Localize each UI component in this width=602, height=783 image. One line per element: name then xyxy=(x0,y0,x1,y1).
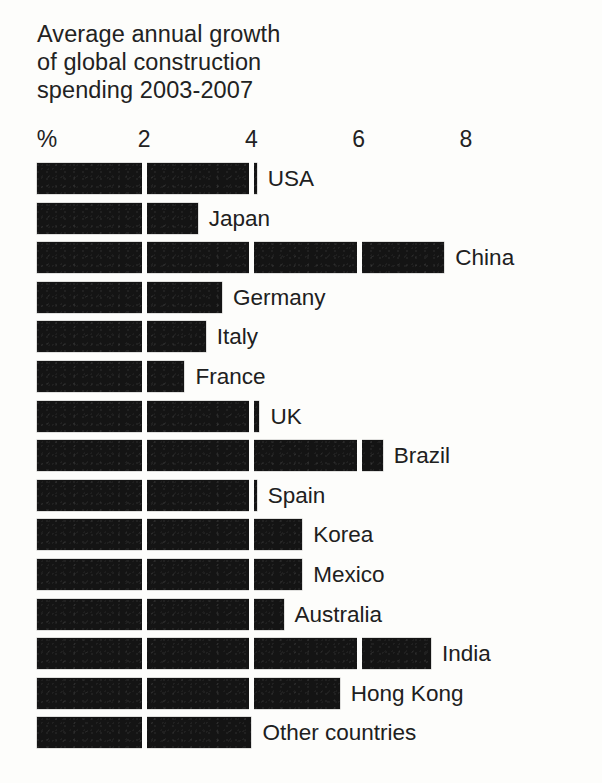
gridline-4 xyxy=(249,598,254,631)
gridline-2 xyxy=(142,400,147,433)
bar-row: UK xyxy=(0,401,602,432)
bar-row: Hong Kong xyxy=(0,678,602,709)
gridline-2 xyxy=(142,637,147,670)
x-axis-tick-4: 4 xyxy=(245,126,258,152)
gridline-2 xyxy=(142,439,147,472)
x-axis-tick-8: 8 xyxy=(459,126,472,152)
gridline-4 xyxy=(249,241,254,274)
bar-label: Japan xyxy=(209,205,270,232)
bar-label: Korea xyxy=(313,521,373,548)
bar-row: France xyxy=(0,361,602,392)
bar-row: India xyxy=(0,638,602,669)
bar-label: India xyxy=(442,640,491,667)
gridline-4 xyxy=(249,677,254,710)
bar-label: France xyxy=(195,363,265,390)
bar-label: UK xyxy=(270,403,301,430)
gridline-4 xyxy=(249,558,254,591)
gridline-2 xyxy=(142,241,147,274)
bar-label: Australia xyxy=(295,601,383,628)
gridline-4 xyxy=(249,518,254,551)
bar-row: Mexico xyxy=(0,559,602,590)
gridline-2 xyxy=(142,479,147,512)
gridline-4 xyxy=(249,400,254,433)
gridline-6 xyxy=(357,241,362,274)
gridline-2 xyxy=(142,320,147,353)
chart-plot-area: USAJapanChinaGermanyItalyFranceUKBrazilS… xyxy=(0,163,602,763)
gridline-2 xyxy=(142,162,147,195)
bar-row: Australia xyxy=(0,599,602,630)
gridline-6 xyxy=(357,637,362,670)
bar xyxy=(37,678,340,709)
bar xyxy=(37,282,222,313)
x-axis-tick-6: 6 xyxy=(352,126,365,152)
bar-label: Other countries xyxy=(262,719,416,746)
bar xyxy=(37,361,184,392)
bar xyxy=(37,638,431,669)
bar-label: Italy xyxy=(217,323,258,350)
gridline-2 xyxy=(142,360,147,393)
bar-label: Germany xyxy=(233,284,326,311)
bar-row: Germany xyxy=(0,282,602,313)
gridline-2 xyxy=(142,558,147,591)
gridline-6 xyxy=(357,439,362,472)
bar-label: China xyxy=(455,244,514,271)
bar xyxy=(37,559,302,590)
bar-chart-figure: Average annual growth of global construc… xyxy=(0,0,602,783)
bar xyxy=(37,401,259,432)
x-axis-tick-percent: % xyxy=(37,126,57,152)
bar xyxy=(37,519,302,550)
gridline-4 xyxy=(249,637,254,670)
bar-label: Spain xyxy=(268,482,326,509)
bar-row: Italy xyxy=(0,321,602,352)
bar-label: Hong Kong xyxy=(351,680,464,707)
x-axis-tick-2: 2 xyxy=(138,126,151,152)
bar-label: Brazil xyxy=(394,442,450,469)
bar xyxy=(37,440,383,471)
bar-label: USA xyxy=(268,165,314,192)
bar-row: Other countries xyxy=(0,717,602,748)
bar-row: Brazil xyxy=(0,440,602,471)
bar xyxy=(37,321,206,352)
bar xyxy=(37,203,198,234)
bar-row: Japan xyxy=(0,203,602,234)
gridline-4 xyxy=(249,162,254,195)
gridline-2 xyxy=(142,716,147,749)
chart-title: Average annual growth of global construc… xyxy=(37,20,457,104)
gridline-4 xyxy=(249,439,254,472)
x-axis-tick-labels: %2468 xyxy=(0,126,602,156)
gridline-2 xyxy=(142,281,147,314)
gridline-2 xyxy=(142,598,147,631)
gridline-2 xyxy=(142,677,147,710)
bar-row: USA xyxy=(0,163,602,194)
gridline-2 xyxy=(142,518,147,551)
bar-row: Korea xyxy=(0,519,602,550)
bar-label: Mexico xyxy=(313,561,384,588)
gridline-2 xyxy=(142,202,147,235)
gridline-4 xyxy=(249,479,254,512)
bar-row: China xyxy=(0,242,602,273)
bar-row: Spain xyxy=(0,480,602,511)
bar xyxy=(37,242,444,273)
bar xyxy=(37,599,284,630)
